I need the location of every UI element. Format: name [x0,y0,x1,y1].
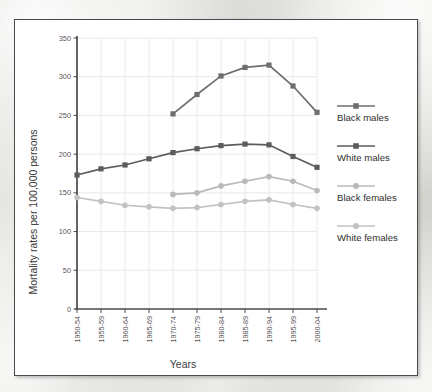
y-axis-ticks: 050100150200250300350 [59,34,77,314]
data-point-marker [122,162,127,167]
x-tick-label: 1960-64 [121,316,130,342]
data-point-marker [218,143,223,148]
data-point-marker [242,141,247,146]
x-tick-label: 1950-54 [73,316,82,342]
figure-panel: 050100150200250300350 1950-541955-591960… [14,19,418,376]
data-point-marker [218,73,223,78]
mortality-line-chart: 050100150200250300350 1950-541955-591960… [15,20,417,375]
x-tick-label: 1955-59 [97,316,106,342]
data-point-marker [266,197,272,203]
chart-area: 050100150200250300350 1950-541955-591960… [15,20,417,375]
legend-label: White females [337,232,398,243]
y-tick-label: 100 [59,227,71,236]
x-tick-label: 1995-99 [289,316,298,342]
data-point-marker [170,150,175,155]
x-tick-label: 2000-04 [313,316,322,342]
data-point-marker [314,188,320,194]
y-tick-label: 200 [59,150,71,159]
data-point-marker [98,166,103,171]
legend-marker [353,103,359,109]
data-point-marker [314,206,320,212]
y-tick-label: 0 [67,305,71,314]
data-point-marker [218,183,224,189]
data-point-marker [74,195,80,201]
data-point-marker [266,174,272,180]
data-point-marker [290,178,296,184]
data-point-marker [194,146,199,151]
data-point-marker [170,192,176,198]
legend-entry-white-males[interactable]: White males [337,143,390,162]
data-point-marker [266,63,271,68]
y-axis-title: Mortality rates per 100,000 persons [27,129,39,294]
data-point-marker [194,190,200,196]
data-point-marker [146,156,151,161]
x-axis-ticks: 1950-541955-591960-641965-691970-741975-… [73,309,322,342]
legend-entry-black-females[interactable]: Black females [337,183,397,203]
y-tick-label: 350 [59,34,71,43]
legend-entry-black-males[interactable]: Black males [337,103,389,122]
x-tick-label: 1985-89 [241,316,250,342]
x-tick-label: 1970-74 [169,316,178,342]
data-point-marker [242,65,247,70]
data-point-marker [122,202,128,208]
data-point-marker [218,202,224,208]
data-point-marker [146,204,152,210]
legend-label: Black males [337,112,389,123]
y-tick-label: 300 [59,72,71,81]
legend-marker [353,183,359,189]
y-tick-label: 250 [59,111,71,120]
x-axis-title: Years [170,358,196,370]
data-point-marker [242,199,248,205]
data-point-marker [98,199,104,205]
data-point-marker [170,111,175,116]
legend-marker [353,223,359,229]
legend-label: Black females [337,192,397,203]
legend-entry-white-females[interactable]: White females [337,223,398,243]
data-point-marker [266,142,271,147]
data-point-marker [242,178,248,184]
x-tick-label: 1990-94 [265,316,274,342]
data-point-marker [74,172,79,177]
legend-marker [353,143,359,149]
data-point-marker [290,202,296,208]
chart-legend: Black malesWhite malesBlack femalesWhite… [337,103,398,242]
data-point-marker [314,165,319,170]
grid-lines [77,38,317,309]
data-point-marker [290,154,295,159]
x-tick-label: 1975-79 [193,316,202,342]
data-point-marker [170,206,176,212]
y-tick-label: 150 [59,188,71,197]
legend-label: White males [337,152,390,163]
x-tick-label: 1980-84 [217,316,226,342]
data-point-marker [194,92,199,97]
x-tick-label: 1965-69 [145,316,154,342]
data-point-marker [194,205,200,211]
data-point-marker [314,110,319,115]
data-point-marker [290,83,295,88]
y-tick-label: 50 [63,266,71,275]
